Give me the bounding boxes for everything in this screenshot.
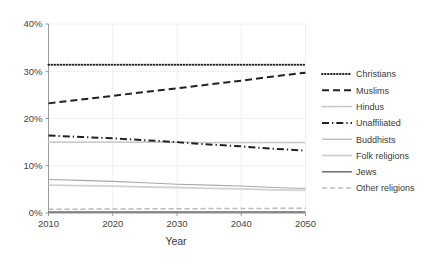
- x-tick-label: 2030: [166, 218, 187, 229]
- x-tick-label: 2040: [231, 218, 252, 229]
- x-tick-label: 2020: [102, 218, 123, 229]
- legend-label-muslims: Muslims: [356, 86, 389, 96]
- legend-label-unaffiliated: Unaffiliated: [356, 118, 401, 128]
- y-tick-label: 40%: [23, 18, 43, 29]
- legend-label-christians: Christians: [356, 69, 397, 79]
- line-chart: 0%10%20%30%40% 20102020203020402050 Chri…: [0, 0, 436, 257]
- y-tick-label: 0%: [29, 207, 43, 218]
- chart-background: [0, 0, 436, 257]
- y-tick-label: 10%: [23, 160, 43, 171]
- legend-label-folk-religions: Folk religions: [356, 151, 410, 161]
- chart-container: 0%10%20%30%40% 20102020203020402050 Chri…: [0, 0, 436, 257]
- y-tick-label: 20%: [23, 113, 43, 124]
- legend-label-jews: Jews: [356, 167, 377, 177]
- legend-label-hindus: Hindus: [356, 102, 385, 112]
- x-axis-title: Year: [165, 235, 187, 247]
- y-tick-label: 30%: [23, 66, 43, 77]
- legend-label-other-religions: Other religions: [356, 183, 415, 193]
- legend-label-buddhists: Buddhists: [356, 135, 396, 145]
- x-tick-label: 2010: [38, 218, 59, 229]
- x-tick-label: 2050: [295, 218, 316, 229]
